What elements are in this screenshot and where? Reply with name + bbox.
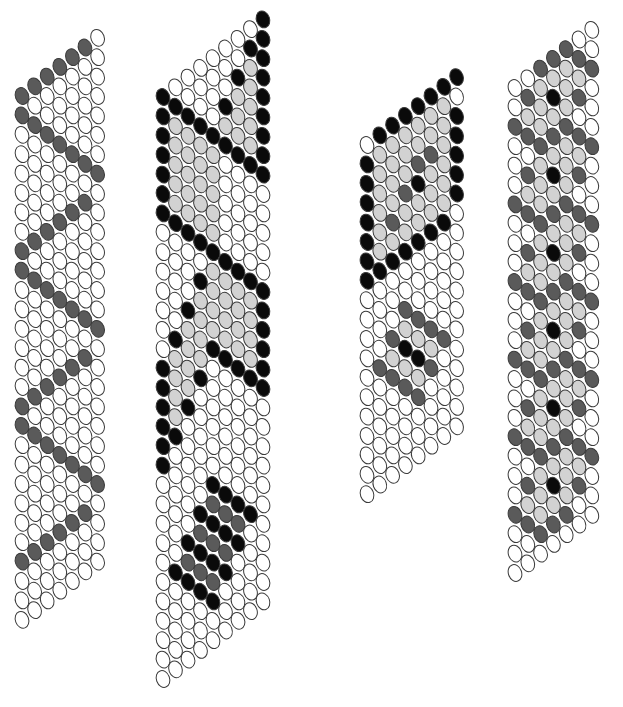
zigzag-strip bbox=[13, 27, 107, 630]
bead-pattern-diagram bbox=[0, 0, 623, 707]
parallelogram-strip bbox=[358, 67, 466, 505]
diamond-chain-strip bbox=[506, 19, 601, 583]
cross-diamond-strip bbox=[154, 9, 272, 689]
